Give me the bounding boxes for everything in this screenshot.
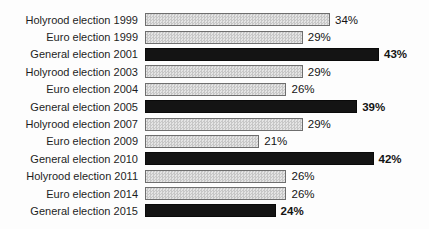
chart-row: Holyrood election 201126% <box>8 168 429 185</box>
value-label: 43% <box>384 48 407 60</box>
category-label: Euro election 2009 <box>8 135 145 147</box>
bar-other-election <box>145 187 286 200</box>
category-label: Holyrood election 2007 <box>8 118 145 130</box>
chart-row: General election 201524% <box>8 202 429 219</box>
bar-other-election <box>145 65 303 78</box>
value-label: 29% <box>308 118 331 130</box>
chart-row: General election 201042% <box>8 150 429 167</box>
value-label: 26% <box>291 170 314 182</box>
category-label: General election 2015 <box>8 205 145 217</box>
chart-row: Euro election 201426% <box>8 185 429 202</box>
value-label: 42% <box>379 153 402 165</box>
value-label: 39% <box>362 101 385 113</box>
bar-other-election <box>145 13 330 26</box>
category-label: General election 2001 <box>8 48 145 60</box>
turnout-bar-chart: Holyrood election 199934%Euro election 1… <box>0 0 429 229</box>
category-label: Holyrood election 2003 <box>8 66 145 78</box>
value-label: 29% <box>308 31 331 43</box>
category-label: General election 2005 <box>8 101 145 113</box>
chart-rows: Holyrood election 199934%Euro election 1… <box>8 11 429 220</box>
chart-row: General election 200143% <box>8 46 429 63</box>
chart-row: General election 200539% <box>8 98 429 115</box>
bar-other-election <box>145 31 303 44</box>
category-label: General election 2010 <box>8 153 145 165</box>
bar-other-election <box>145 118 303 131</box>
bar-general-election <box>145 204 276 217</box>
category-label: Euro election 2004 <box>8 83 145 95</box>
chart-row: Euro election 199929% <box>8 28 429 45</box>
value-label: 29% <box>308 66 331 78</box>
category-label: Holyrood election 1999 <box>8 14 145 26</box>
value-label: 24% <box>281 205 304 217</box>
chart-row: Euro election 200426% <box>8 81 429 98</box>
chart-row: Holyrood election 199934% <box>8 11 429 28</box>
bar-general-election <box>145 100 357 113</box>
value-label: 26% <box>291 83 314 95</box>
bar-general-election <box>145 48 379 61</box>
category-label: Euro election 1999 <box>8 31 145 43</box>
bar-other-election <box>145 83 286 96</box>
category-label: Euro election 2014 <box>8 188 145 200</box>
bar-other-election <box>145 135 259 148</box>
value-label: 26% <box>291 188 314 200</box>
chart-row: Holyrood election 200329% <box>8 63 429 80</box>
value-label: 21% <box>264 135 287 147</box>
category-label: Holyrood election 2011 <box>8 170 145 182</box>
bar-general-election <box>145 152 374 165</box>
chart-row: Euro election 200921% <box>8 133 429 150</box>
chart-row: Holyrood election 200729% <box>8 115 429 132</box>
bar-other-election <box>145 170 286 183</box>
value-label: 34% <box>335 14 358 26</box>
